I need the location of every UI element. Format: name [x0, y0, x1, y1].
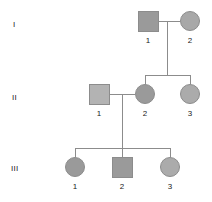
sibship-bar: [145, 75, 191, 76]
individual-ii-2-female[interactable]: [135, 84, 155, 104]
mating-line: [158, 21, 180, 22]
individual-index-ii-1: 1: [89, 110, 109, 118]
individual-index-ii-2: 2: [135, 110, 155, 118]
generation-label-i: I: [13, 21, 16, 29]
descent-line: [122, 94, 123, 148]
pedigree-chart: 12123123 IIIIII: [0, 0, 212, 202]
sib-drop: [190, 75, 191, 84]
individual-ii-1-male[interactable]: [89, 84, 110, 105]
sibship-bar: [75, 148, 171, 149]
sib-drop: [170, 148, 171, 157]
individual-index-iii-2: 2: [112, 183, 132, 191]
individual-index-i-2: 2: [180, 37, 200, 45]
individual-index-iii-3: 3: [160, 183, 180, 191]
sib-drop: [75, 148, 76, 157]
individual-iii-3-female[interactable]: [160, 157, 180, 177]
sib-drop: [145, 75, 146, 84]
individual-index-iii-1: 1: [65, 183, 85, 191]
individual-iii-2-male[interactable]: [112, 157, 133, 178]
individual-ii-3-female[interactable]: [180, 84, 200, 104]
individual-i-2-female[interactable]: [180, 11, 200, 31]
individual-i-1-male[interactable]: [138, 11, 159, 32]
individual-index-i-1: 1: [138, 37, 158, 45]
generation-label-ii: II: [12, 94, 17, 102]
individual-index-ii-3: 3: [180, 110, 200, 118]
generation-label-iii: III: [11, 165, 19, 173]
descent-line: [167, 21, 168, 75]
individual-iii-1-female[interactable]: [65, 157, 85, 177]
